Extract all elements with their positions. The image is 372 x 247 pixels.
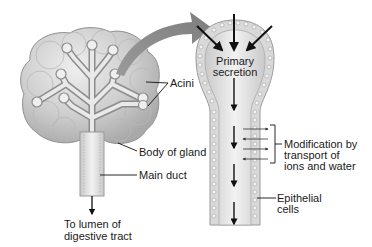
to-lumen-label-line2: digestive tract (64, 230, 132, 242)
main-duct (80, 132, 104, 196)
modification-label-line3: ions and water (284, 160, 356, 172)
duct-detail (196, 20, 274, 225)
to-lumen-label-line1: To lumen of (64, 218, 121, 230)
epithelial-cells-label-line2: cells (277, 203, 299, 215)
acini-label: Acini (170, 77, 194, 89)
body-of-gland-label: Body of gland (139, 146, 206, 158)
primary-secretion-label-line2: secretion (205, 66, 265, 78)
exocrine-gland-diagram (0, 0, 372, 247)
leader-lines-right (257, 125, 282, 198)
main-duct-label: Main duct (139, 169, 187, 181)
